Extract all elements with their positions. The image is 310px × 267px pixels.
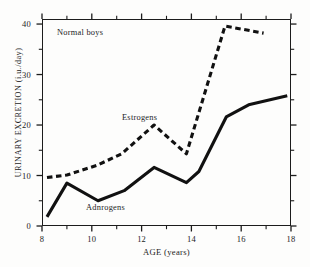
- y-axis-title: URINARY EXCRETION (i.u./day): [14, 27, 23, 199]
- chart-figure: 01020304081012141618 URINARY EXCRETION (…: [0, 0, 310, 267]
- x-tick-label: 18: [281, 234, 301, 244]
- series-adnrogens: [47, 96, 287, 217]
- x-tick-label: 10: [82, 234, 102, 244]
- x-tick-label: 14: [181, 234, 201, 244]
- x-tick-label: 16: [231, 234, 251, 244]
- x-axis-title: AGE (years): [42, 247, 291, 257]
- axis-ticks: [37, 14, 297, 232]
- annotation-estrogens: Estrogens: [122, 113, 157, 122]
- x-tick-label: 12: [132, 234, 152, 244]
- annotation-androgens: Adnrogens: [86, 203, 125, 212]
- x-tick-label: 8: [32, 234, 52, 244]
- annotation-normal-boys: Normal boys: [57, 28, 103, 37]
- plot-canvas: [0, 0, 310, 267]
- series-estrogens: [47, 26, 264, 177]
- y-tick-label: 0: [13, 221, 31, 231]
- data-series-group: [47, 26, 287, 217]
